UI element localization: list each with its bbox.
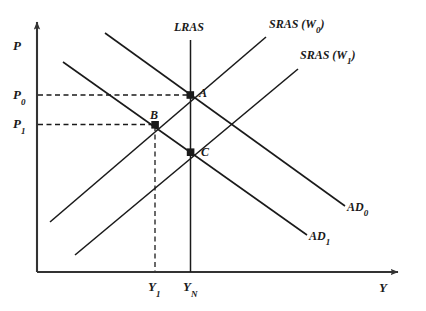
- point-label-c: C: [201, 146, 209, 158]
- y-tick-p1-sub: 1: [21, 126, 26, 136]
- sras-w1-label-sub: 1: [347, 56, 352, 66]
- x-tick-yn-sub: N: [191, 289, 198, 299]
- x-tick-yn: YN: [183, 280, 197, 297]
- ad-as-diagram: P Y LRAS SRAS(W0) SRAS(W1) AD0 AD1 A B C…: [0, 0, 426, 311]
- sras-w1-label: SRAS(W1): [300, 49, 356, 64]
- x-tick-y1-sub: 1: [156, 289, 161, 299]
- sras-w1-paren-close: ): [352, 48, 356, 62]
- y-tick-p0-sub: 0: [21, 97, 26, 107]
- ad0-label-sub: 0: [364, 208, 369, 218]
- sras-w0-label-base: SRAS: [269, 17, 298, 31]
- ad1-label-base: AD: [309, 229, 326, 243]
- lras-label: LRAS: [174, 21, 204, 33]
- point-label-b: B: [150, 109, 158, 121]
- sras-w1-label-base: SRAS: [300, 48, 329, 62]
- ad0-label-base: AD: [347, 200, 364, 214]
- y-axis-label: P: [13, 39, 21, 52]
- point-marker-c: [187, 148, 195, 156]
- point-marker-b: [151, 121, 159, 129]
- diagram-svg: [0, 0, 426, 311]
- sras-w0-label-sub: 0: [316, 25, 321, 35]
- y-tick-p0-base: P: [13, 87, 21, 102]
- sras-w0-paren-close: ): [321, 17, 325, 31]
- ad1-curve: [63, 62, 307, 235]
- sras-w0-label: SRAS(W0): [269, 18, 325, 33]
- x-tick-y1-base: Y: [148, 279, 156, 294]
- point-label-a: A: [199, 87, 207, 99]
- ad0-label: AD0: [347, 201, 368, 216]
- y-tick-p0: P0: [13, 88, 25, 105]
- y-tick-p1: P1: [13, 117, 25, 134]
- x-axis-label: Y: [379, 281, 387, 294]
- ad1-label: AD1: [309, 230, 330, 245]
- sras-w0-label-var: W: [305, 17, 316, 31]
- ad1-label-sub: 1: [326, 237, 331, 247]
- point-marker-a: [187, 91, 195, 99]
- sras-w1-label-var: W: [336, 48, 347, 62]
- x-tick-yn-base: Y: [183, 279, 191, 294]
- y-tick-p1-base: P: [13, 116, 21, 131]
- x-tick-y1: Y1: [148, 280, 160, 297]
